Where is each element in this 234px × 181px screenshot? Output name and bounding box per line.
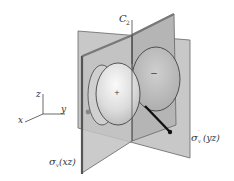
lobe-front-sign: + [114,89,120,97]
orbital-symmetry-diagram: − + C 2 z y x σ v (xz) [0,0,234,181]
sigma-xz-paren: (xz) [59,157,76,167]
plane-xz-label: σ v (xz) [49,156,76,168]
sigma-yz-paren: (yz) [203,133,220,143]
axis-x-label: x [18,115,23,125]
nucleus-marker-icon [86,110,91,115]
axis-y-label: y [60,104,67,114]
sigma-yz-prime: ′ [198,129,200,135]
lobe-back-sign: − [150,68,158,78]
coordinate-axes: z y x [18,89,67,125]
plane-yz-label: σ ′ v (yz) [191,129,220,144]
c2-subscript: 2 [126,19,130,26]
orbital-lobe-front: + [96,63,140,125]
sigma-yz-sub: v [197,138,201,144]
axis-z-label: z [35,89,41,99]
